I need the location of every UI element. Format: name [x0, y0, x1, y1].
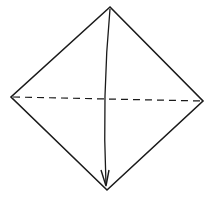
paper-square: [11, 7, 203, 190]
origami-diagram: [0, 0, 205, 199]
